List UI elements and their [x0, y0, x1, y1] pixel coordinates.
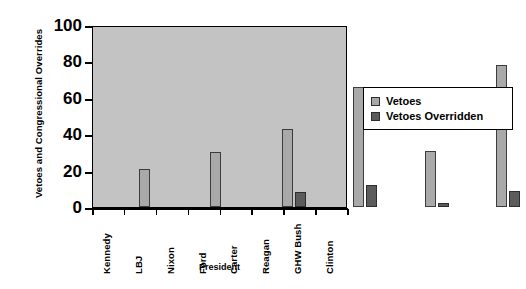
- y-axis-tick: [85, 172, 92, 174]
- y-axis-tick-marks: [85, 26, 92, 208]
- y-axis-tick-label: 60: [36, 90, 82, 108]
- y-axis-tick: [85, 99, 92, 101]
- veto-bar-chart: Vetoes and Congressional Overrides 10080…: [0, 0, 526, 289]
- vetoes-overridden-swatch-icon: [371, 112, 380, 121]
- plot-area: [92, 26, 347, 208]
- category-group: [236, 27, 308, 207]
- bar-overridden: [366, 185, 377, 207]
- bar-overridden: [438, 203, 449, 207]
- x-axis-tick: [315, 209, 317, 215]
- x-axis-tick: [283, 209, 285, 215]
- category-group: [165, 27, 237, 207]
- x-axis-tick: [220, 209, 222, 215]
- y-axis-tick-label: 20: [36, 163, 82, 181]
- bar-vetoes: [139, 169, 150, 207]
- bars-container: [93, 27, 346, 207]
- legend-label-vetoes-overridden: Vetoes Overridden: [386, 110, 483, 122]
- x-axis-title: President: [92, 262, 347, 272]
- category-group: [522, 27, 526, 207]
- chart-legend: Vetoes Vetoes Overridden: [363, 87, 513, 130]
- bar-overridden: [509, 191, 520, 207]
- legend-item-vetoes: Vetoes: [371, 94, 505, 108]
- bar-vetoes: [425, 151, 436, 207]
- category-group: [93, 27, 165, 207]
- legend-item-vetoes-overridden: Vetoes Overridden: [371, 109, 505, 123]
- y-axis-tick-label: 100: [36, 17, 82, 35]
- legend-label-vetoes: Vetoes: [386, 95, 421, 107]
- x-axis-tick: [347, 209, 349, 215]
- y-axis-tick: [85, 62, 92, 64]
- x-axis-tick: [124, 209, 126, 215]
- x-axis-tick: [188, 209, 190, 215]
- y-axis-tick: [85, 135, 92, 137]
- bar-overridden: [295, 192, 306, 207]
- x-axis-tick: [92, 209, 94, 215]
- y-axis-tick-labels: 100806040200: [36, 17, 82, 209]
- y-axis-tick: [85, 26, 92, 28]
- x-axis-tick-marks: [92, 209, 347, 215]
- bar-vetoes: [282, 129, 293, 207]
- x-axis-tick: [156, 209, 158, 215]
- y-axis-tick-label: 40: [36, 126, 82, 144]
- bar-vetoes: [210, 152, 221, 207]
- vetoes-swatch-icon: [371, 97, 380, 106]
- y-axis-tick-label: 0: [36, 199, 82, 217]
- y-axis-tick-label: 80: [36, 53, 82, 71]
- x-axis-tick: [251, 209, 253, 215]
